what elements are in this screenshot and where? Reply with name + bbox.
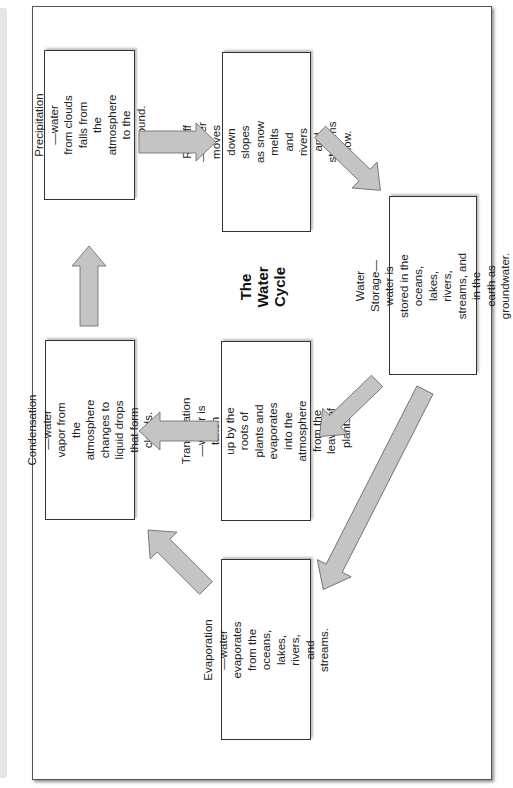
arrow-left-icon [139, 412, 218, 450]
arrow-right-icon [139, 123, 216, 161]
arrow-up-left-icon [135, 517, 220, 602]
arrow-down-left-short-icon [307, 368, 390, 449]
arrow-up-icon [72, 246, 106, 326]
arrow-down-right-icon [307, 119, 392, 203]
